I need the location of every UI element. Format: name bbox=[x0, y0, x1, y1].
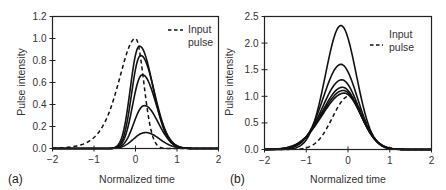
y-tick-label: 1.0 bbox=[33, 33, 47, 44]
output-pulse-curve bbox=[265, 93, 432, 149]
y-tick-label: 0.0 bbox=[245, 144, 259, 155]
y-tick-label: 0.6 bbox=[33, 77, 47, 88]
x-tick-label: 1 bbox=[174, 154, 180, 165]
panel-a-curves bbox=[53, 39, 219, 149]
legend-label-line2: pulse bbox=[389, 41, 414, 53]
figure: 0.00.20.40.60.81.01.2 −2−1012 Input puls… bbox=[0, 0, 446, 190]
panel-a-label: (a) bbox=[8, 172, 23, 186]
panel-a: 0.00.20.40.60.81.01.2 −2−1012 Input puls… bbox=[8, 11, 222, 186]
output-pulse-curve bbox=[53, 106, 219, 149]
x-tick-label: 2 bbox=[216, 154, 222, 165]
output-pulse-curve bbox=[53, 46, 219, 148]
output-pulse-curve bbox=[265, 87, 432, 149]
legend-label-line1: Input bbox=[389, 28, 412, 40]
y-tick-label: 0.5 bbox=[245, 117, 259, 128]
legend-label-line1: Input bbox=[188, 23, 211, 35]
y-tick-label: 2.0 bbox=[245, 38, 259, 49]
y-tick-label: 1.5 bbox=[245, 64, 259, 75]
panel-b-label: (b) bbox=[230, 172, 245, 186]
x-tick-label: −1 bbox=[301, 155, 313, 166]
output-pulse-curve bbox=[265, 90, 432, 149]
y-tick-label: 0.2 bbox=[33, 121, 47, 132]
x-tick-label: 2 bbox=[429, 155, 435, 166]
x-tick-label: −1 bbox=[88, 154, 100, 165]
x-tick-label: −2 bbox=[259, 155, 271, 166]
y-tick-label: 0.0 bbox=[33, 143, 47, 154]
x-tick-label: 0 bbox=[345, 155, 351, 166]
y-tick-label: 0.8 bbox=[33, 55, 47, 66]
panel-b-ylabel: Pulse intensity bbox=[223, 47, 235, 115]
panel-a-legend: Input pulse bbox=[168, 23, 213, 48]
panel-a-ylabel: Pulse intensity bbox=[15, 47, 27, 115]
panel-b-xlabel: Normalized time bbox=[310, 173, 386, 185]
y-tick-label: 0.4 bbox=[33, 99, 47, 110]
panel-a-xlabel: Normalized time bbox=[99, 173, 175, 185]
y-tick-label: 1.2 bbox=[33, 11, 47, 22]
input-pulse-curve bbox=[265, 96, 432, 149]
output-pulse-curve bbox=[53, 56, 219, 149]
x-tick-label: −2 bbox=[47, 154, 59, 165]
y-tick-label: 1.0 bbox=[245, 91, 259, 102]
x-tick-label: 1 bbox=[387, 155, 393, 166]
y-tick-label: 2.5 bbox=[245, 11, 259, 22]
legend-label-line2: pulse bbox=[188, 36, 213, 48]
output-pulse-curve bbox=[265, 64, 432, 149]
panel-b-legend: Input pulse bbox=[370, 28, 414, 53]
x-tick-label: 0 bbox=[133, 154, 139, 165]
panel-b: 0.00.51.01.52.02.5 −2−1012 Input pulse P… bbox=[223, 11, 435, 186]
